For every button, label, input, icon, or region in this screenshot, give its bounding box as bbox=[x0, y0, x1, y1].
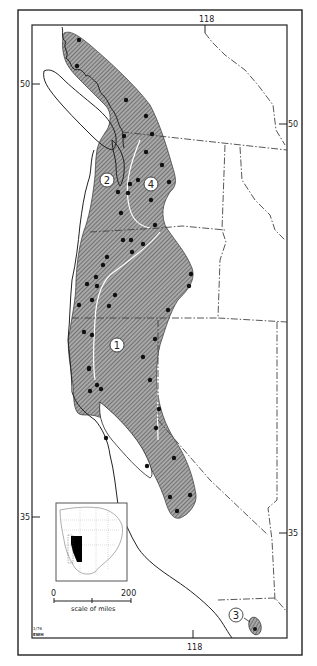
lat-50-right-label: 50 bbox=[288, 120, 298, 129]
range-label-2: 2 bbox=[100, 173, 114, 187]
scale-end-label: 200 bbox=[121, 589, 136, 598]
lon-bottom-label: 118 bbox=[187, 643, 202, 652]
scale-start-label: 0 bbox=[51, 589, 56, 598]
range-label-3: 3 bbox=[229, 608, 243, 622]
svg-text:1/76: 1/76 bbox=[33, 626, 42, 631]
svg-text:1: 1 bbox=[114, 340, 120, 351]
svg-text:EWH: EWH bbox=[33, 632, 44, 637]
lon-top-label: 118 bbox=[199, 15, 214, 24]
svg-text:2: 2 bbox=[104, 175, 110, 186]
range-label-1: 1 bbox=[110, 338, 124, 352]
inset-map bbox=[56, 503, 127, 581]
lat-35-right-label: 35 bbox=[288, 529, 298, 538]
credit: 1/76 EWH bbox=[33, 626, 44, 637]
range-label-4: 4 bbox=[144, 177, 158, 191]
scale-caption: scale of miles bbox=[71, 605, 116, 613]
lat-50-left-label: 50 bbox=[20, 80, 30, 89]
svg-text:3: 3 bbox=[233, 610, 239, 621]
svg-text:4: 4 bbox=[148, 179, 154, 190]
lat-35-left-label: 35 bbox=[20, 513, 30, 522]
range-map: 118 118 50 50 35 35 bbox=[0, 0, 317, 666]
